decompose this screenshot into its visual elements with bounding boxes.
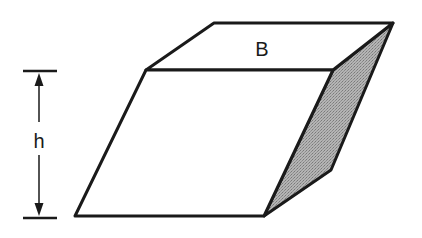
base-label: B	[255, 38, 268, 60]
height-label: h	[33, 130, 44, 152]
arrow-up-icon	[35, 73, 44, 86]
oblique-prism-diagram: B h	[0, 0, 422, 238]
arrow-down-icon	[35, 203, 44, 216]
height-dimension: h	[23, 71, 57, 218]
